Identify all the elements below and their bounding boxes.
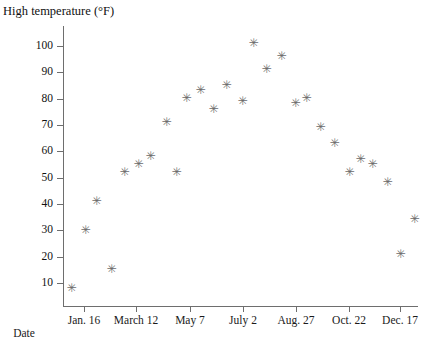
y-tick-label-wrap: 20 [0, 251, 53, 262]
data-point: ✳ [302, 94, 311, 103]
y-tick-label-wrap: 10 [0, 277, 53, 288]
data-point: ✳ [316, 123, 325, 132]
y-tick-label: 10 [7, 277, 53, 288]
x-axis-line [63, 306, 418, 307]
x-tick-label: May 7 [175, 314, 205, 326]
data-point: ✳ [277, 52, 286, 61]
data-point: ✳ [368, 160, 377, 169]
data-point: ✳ [92, 197, 101, 206]
data-point: ✳ [67, 284, 76, 293]
x-tick-label: Aug. 27 [277, 314, 314, 326]
y-tick-mark [57, 204, 63, 205]
y-tick-label-wrap: 90 [0, 66, 53, 77]
y-tick-label-wrap: 40 [0, 198, 53, 209]
data-point: ✳ [107, 265, 116, 274]
data-point: ✳ [396, 250, 405, 259]
x-tick-mark [136, 306, 137, 312]
data-point: ✳ [249, 39, 258, 48]
y-tick-mark [57, 125, 63, 126]
y-tick-mark [57, 283, 63, 284]
y-tick-mark [57, 178, 63, 179]
y-tick-label: 100 [7, 40, 53, 51]
x-tick-label: July 2 [229, 314, 257, 326]
y-tick-label: 50 [7, 172, 53, 183]
data-point: ✳ [162, 118, 171, 127]
data-point: ✳ [262, 65, 271, 74]
data-point: ✳ [182, 94, 191, 103]
data-point: ✳ [345, 168, 354, 177]
x-tick-label: March 12 [114, 314, 158, 326]
y-tick-label-wrap: 80 [0, 93, 53, 104]
x-axis-title-row: Date [0, 327, 432, 339]
x-tick-mark [84, 306, 85, 312]
y-tick-mark [57, 72, 63, 73]
data-point: ✳ [209, 105, 218, 114]
data-point: ✳ [222, 81, 231, 90]
y-tick-label-wrap: 60 [0, 145, 53, 156]
y-tick-mark [57, 257, 63, 258]
data-point: ✳ [238, 97, 247, 106]
x-tick-label: Dec. 17 [382, 314, 418, 326]
data-point: ✳ [134, 160, 143, 169]
y-axis-title: High temperature (°F) [3, 4, 114, 19]
y-tick-label: 40 [7, 198, 53, 209]
y-tick-mark [57, 99, 63, 100]
data-point: ✳ [383, 178, 392, 187]
data-point: ✳ [146, 152, 155, 161]
x-tick-mark [400, 306, 401, 312]
y-tick-label: 30 [7, 224, 53, 235]
data-point: ✳ [172, 168, 181, 177]
y-tick-label-wrap: 30 [0, 224, 53, 235]
data-point: ✳ [196, 86, 205, 95]
data-point: ✳ [356, 155, 365, 164]
y-tick-mark [57, 151, 63, 152]
y-axis-line [63, 26, 64, 307]
data-point: ✳ [330, 139, 339, 148]
y-tick-label: 80 [7, 93, 53, 104]
y-tick-label-wrap: 50 [0, 172, 53, 183]
data-point: ✳ [120, 168, 129, 177]
data-point: ✳ [410, 215, 419, 224]
x-tick-label: Oct. 22 [332, 314, 366, 326]
y-tick-label: 70 [7, 119, 53, 130]
y-tick-label: 90 [7, 66, 53, 77]
x-tick-label: Jan. 16 [68, 314, 101, 326]
x-tick-mark [296, 306, 297, 312]
x-tick-mark [243, 306, 244, 312]
x-tick-mark [349, 306, 350, 312]
y-tick-label: 20 [7, 251, 53, 262]
y-tick-label-wrap: 70 [0, 119, 53, 130]
y-tick-label-wrap: 100 [0, 40, 53, 51]
y-tick-label: 60 [7, 145, 53, 156]
x-tick-mark [190, 306, 191, 312]
data-point: ✳ [291, 99, 300, 108]
y-tick-mark [57, 230, 63, 231]
scatter-chart: High temperature (°F) 102030405060708090… [0, 0, 432, 346]
x-axis-title: Date [13, 327, 35, 339]
data-point: ✳ [81, 226, 90, 235]
y-tick-mark [57, 46, 63, 47]
